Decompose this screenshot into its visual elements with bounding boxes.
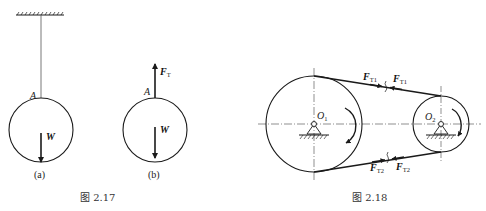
figure-2-18: FT1 FT1 FT2 FT2 O1 bbox=[258, 68, 481, 180]
pulley-2-label: O2 bbox=[425, 111, 435, 123]
point-a-label: A bbox=[29, 90, 37, 101]
tension-label: FT bbox=[159, 66, 171, 78]
figure-canvas: A W (a) A FT W (b) 图 2.17 FT1 bbox=[0, 0, 486, 211]
panel-b-label: (b) bbox=[148, 169, 160, 181]
ceiling-support-icon bbox=[16, 12, 64, 15]
figure-2-17a: A W (a) bbox=[9, 12, 73, 181]
lower-right-force-label: FT2 bbox=[395, 161, 410, 173]
caption-figure-2-17: 图 2.17 bbox=[80, 192, 115, 203]
lower-left-force-label: FT2 bbox=[369, 162, 384, 174]
upper-right-force-arrow-icon bbox=[390, 88, 402, 90]
weight-label: W bbox=[46, 131, 56, 142]
figure-2-17b: A FT W (b) bbox=[123, 64, 187, 181]
point-a-label: A bbox=[143, 86, 151, 97]
pulley-1-label: O1 bbox=[317, 110, 327, 122]
panel-a-label: (a) bbox=[34, 169, 45, 181]
pulley-1-rotation-arrow-icon bbox=[345, 108, 356, 143]
upper-right-force-label: FT1 bbox=[392, 73, 407, 85]
pulley-2-rotation-arrow-icon bbox=[452, 109, 461, 136]
upper-left-force-label: FT1 bbox=[362, 71, 377, 83]
upper-left-force-arrow-icon bbox=[370, 85, 382, 87]
caption-figure-2-18: 图 2.18 bbox=[352, 192, 387, 203]
lower-belt-cut-mark bbox=[387, 152, 389, 163]
weight-label: W bbox=[160, 124, 170, 135]
